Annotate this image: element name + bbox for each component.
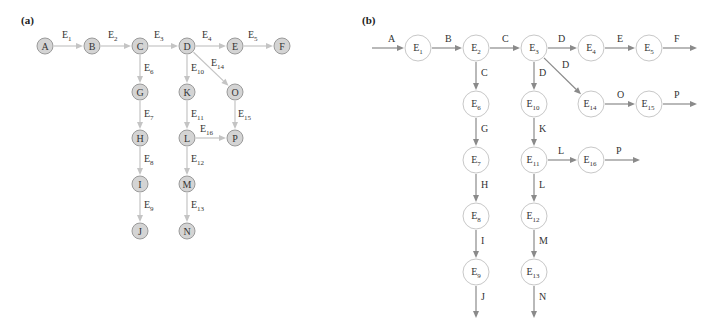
node-M: M: [179, 176, 195, 192]
edge-label-D-K: E10: [191, 62, 205, 76]
edge-label-E12-E13: M: [539, 235, 548, 246]
node-E12: E12: [521, 203, 547, 229]
edge-label-E1-E2: B: [445, 33, 452, 44]
edge-D-E: [196, 43, 226, 49]
edge-label-D-E: E4: [202, 29, 212, 43]
node-F: F: [274, 38, 290, 54]
arrowhead-icon: [219, 43, 226, 49]
arrowhead-icon: [137, 122, 143, 129]
edge-I-J: [137, 193, 143, 222]
edge-E2-E3: [490, 45, 520, 51]
arrowhead-icon: [633, 157, 640, 163]
edge-label-E6-E7: G: [481, 123, 488, 134]
node-B: B: [84, 38, 100, 54]
node-label-E: E: [232, 41, 238, 52]
arrowhead-icon: [232, 122, 238, 129]
edge-label-I-J: E9: [144, 199, 154, 213]
edge-D-K: [184, 55, 190, 83]
arrowhead-icon: [531, 83, 537, 90]
edge-label-E3-E4: D: [558, 33, 565, 44]
node-D: D: [179, 38, 195, 54]
edge-label-E14-E15: O: [617, 89, 624, 100]
edge-C-D: [149, 43, 178, 49]
node-P: P: [227, 130, 243, 146]
edge-label-E-F: E5: [248, 29, 258, 43]
edge-label-E8-E9: I: [481, 235, 484, 246]
open-edge-label-3: P: [616, 145, 622, 156]
node-I: I: [132, 176, 148, 192]
open-edge-1: [663, 45, 697, 51]
node-label-M: M: [183, 179, 192, 190]
node-E10: E10: [521, 91, 547, 117]
arrowhead-icon: [455, 45, 462, 51]
arrowhead-icon: [628, 45, 635, 51]
arrowhead-icon: [473, 83, 479, 90]
arrowhead-icon: [137, 215, 143, 222]
edge-label-A-B: E1: [62, 29, 72, 43]
arrowhead-icon: [397, 45, 404, 51]
edge-E11-E12: [531, 174, 537, 202]
edge-A-B: [54, 43, 83, 49]
node-label-A: A: [41, 41, 49, 52]
edge-label-E11-E12: L: [539, 179, 545, 190]
arrowhead-icon: [473, 139, 479, 146]
edge-H-I: [137, 147, 143, 175]
arrowhead-icon: [628, 101, 635, 107]
open-edge-label-2: P: [674, 89, 680, 100]
edge-E6-E7: [473, 118, 479, 146]
arrowhead-icon: [171, 43, 178, 49]
arrowhead-icon: [531, 311, 537, 318]
open-edge-4: [473, 286, 479, 318]
edge-E10-E11: [531, 118, 537, 146]
node-E3: E3: [521, 35, 547, 61]
edge-label-E10-E11: K: [539, 123, 547, 134]
edge-label-E2-E3: C: [502, 33, 509, 44]
edge-label-B-C: E2: [108, 29, 118, 43]
node-label-N: N: [183, 226, 190, 237]
open-edge-5: [531, 286, 537, 318]
node-N: N: [179, 223, 195, 239]
node-C: C: [132, 38, 148, 54]
node-O: O: [227, 84, 243, 100]
arrowhead-icon: [184, 168, 190, 175]
node-E9: E9: [463, 259, 489, 285]
arrowhead-icon: [513, 45, 520, 51]
edge-E3-E4: [548, 45, 577, 51]
node-label-C: C: [137, 41, 144, 52]
arrowhead-icon: [124, 43, 131, 49]
edge-K-L: [184, 101, 190, 129]
arrowhead-icon: [184, 76, 190, 83]
arrowhead-icon: [690, 45, 697, 51]
arrowhead-icon: [184, 122, 190, 129]
open-edge-2: [663, 101, 697, 107]
arrowhead-icon: [76, 43, 83, 49]
edge-label-E2-E6: C: [481, 67, 488, 78]
arrowhead-icon: [531, 195, 537, 202]
arrowhead-icon: [473, 251, 479, 258]
arrowhead-icon: [266, 43, 273, 49]
node-label-F: F: [279, 41, 285, 52]
edge-label-L-P: E16: [200, 123, 214, 137]
edge-E1-E2: [432, 45, 462, 51]
edge-E-F: [244, 43, 273, 49]
node-E11: E11: [521, 147, 547, 173]
edge-E14-E15: [605, 101, 635, 107]
node-E4: E4: [578, 35, 604, 61]
arrowhead-icon: [531, 139, 537, 146]
edge-label-E3-E14: D: [562, 59, 569, 70]
edge-label-C-D: E3: [154, 29, 164, 43]
edge-label-E3-E10: D: [539, 67, 546, 78]
node-label-B: B: [89, 41, 96, 52]
node-E6: E6: [463, 91, 489, 117]
edge-label-E4-E5: E: [617, 33, 623, 44]
arrowhead-icon: [570, 45, 577, 51]
edge-label-C-G: E6: [144, 62, 154, 76]
node-E15: E15: [636, 91, 662, 117]
node-label-D: D: [183, 41, 190, 52]
node-E2: E2: [463, 35, 489, 61]
open-edge-label-5: N: [539, 291, 546, 302]
edge-M-N: [184, 193, 190, 222]
arrowhead-icon: [690, 101, 697, 107]
edge-E7-E8: [473, 174, 479, 202]
node-label-P: P: [232, 133, 238, 144]
